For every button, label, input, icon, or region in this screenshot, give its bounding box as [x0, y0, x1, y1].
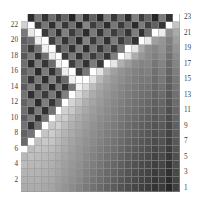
heatmap-cell: [173, 60, 180, 68]
heatmap-cell: [97, 177, 104, 185]
heatmap-cell: [145, 60, 152, 68]
heatmap-cell: [132, 91, 139, 99]
heatmap-cell: [21, 22, 28, 30]
heatmap-cell: [132, 29, 139, 37]
heatmap-cell: [76, 177, 83, 185]
heatmap-cell: [132, 161, 139, 169]
heatmap-cell: [28, 60, 35, 68]
heatmap-cell: [83, 107, 90, 115]
heatmap-cell: [62, 37, 69, 45]
heatmap-cell: [49, 76, 56, 84]
heatmap-figure: 222018161412108642 2321191715131197531: [0, 0, 199, 199]
heatmap-cell: [166, 68, 173, 76]
heatmap-cell: [118, 115, 125, 123]
heatmap-cell: [111, 14, 118, 22]
heatmap-cell: [69, 60, 76, 68]
heatmap-cell: [35, 68, 42, 76]
heatmap-cell: [118, 22, 125, 30]
heatmap-cell: [139, 115, 146, 123]
heatmap-cell: [56, 60, 63, 68]
heatmap-cell: [28, 153, 35, 161]
heatmap-cell: [42, 84, 49, 92]
heatmap-cell: [152, 169, 159, 177]
heatmap-cell: [166, 76, 173, 84]
heatmap-cell: [118, 153, 125, 161]
heatmap-cell: [145, 146, 152, 154]
heatmap-cell: [145, 107, 152, 115]
heatmap-cell: [28, 91, 35, 99]
heatmap-cell: [28, 161, 35, 169]
heatmap-cell: [166, 99, 173, 107]
heatmap-cell: [35, 138, 42, 146]
heatmap-cell: [125, 60, 132, 68]
heatmap-cell: [62, 161, 69, 169]
heatmap-cell: [83, 76, 90, 84]
heatmap-cell: [152, 184, 159, 192]
heatmap-cell: [69, 14, 76, 22]
right-axis-tick-19: 19: [184, 45, 191, 52]
heatmap-cell: [152, 14, 159, 22]
heatmap-cell: [83, 29, 90, 37]
heatmap-cell: [145, 161, 152, 169]
heatmap-cell: [56, 53, 63, 61]
heatmap-cell: [166, 29, 173, 37]
heatmap-cell: [76, 169, 83, 177]
heatmap-cell: [83, 161, 90, 169]
heatmap-cell: [35, 122, 42, 130]
heatmap-cell: [111, 161, 118, 169]
heatmap-cell: [56, 184, 63, 192]
heatmap-cell: [90, 37, 97, 45]
heatmap-cell: [28, 146, 35, 154]
heatmap-cell: [139, 68, 146, 76]
left-axis-tick-8: 8: [14, 130, 18, 137]
heatmap-cell: [132, 68, 139, 76]
right-axis-tick-17: 17: [184, 61, 191, 68]
heatmap-cell: [42, 29, 49, 37]
heatmap-cell: [139, 169, 146, 177]
heatmap-cell: [132, 122, 139, 130]
heatmap-cell: [173, 68, 180, 76]
heatmap-cell: [42, 138, 49, 146]
heatmap-cell: [132, 184, 139, 192]
heatmap-cell: [118, 130, 125, 138]
right-axis-tick-5: 5: [184, 154, 188, 161]
heatmap-cell: [159, 115, 166, 123]
heatmap-cell: [56, 177, 63, 185]
heatmap-cell: [104, 29, 111, 37]
heatmap-cell: [125, 138, 132, 146]
heatmap-cell: [118, 161, 125, 169]
heatmap-cell: [118, 91, 125, 99]
left-axis-tick-12: 12: [11, 99, 18, 106]
heatmap-cell: [90, 107, 97, 115]
heatmap-cell: [49, 130, 56, 138]
heatmap-cell: [35, 91, 42, 99]
heatmap-cell: [76, 45, 83, 53]
heatmap-cell: [125, 37, 132, 45]
heatmap-cell: [49, 107, 56, 115]
heatmap-cell: [83, 60, 90, 68]
heatmap-cell: [159, 161, 166, 169]
heatmap-cell: [104, 99, 111, 107]
heatmap-cell: [83, 130, 90, 138]
heatmap-cell: [28, 76, 35, 84]
heatmap-cell: [21, 122, 28, 130]
heatmap-cell: [118, 14, 125, 22]
heatmap-cell: [83, 177, 90, 185]
heatmap-cell: [104, 146, 111, 154]
heatmap-cell: [173, 130, 180, 138]
heatmap-cell: [56, 84, 63, 92]
heatmap-cell: [111, 130, 118, 138]
heatmap-cell: [139, 130, 146, 138]
heatmap-cell: [62, 60, 69, 68]
heatmap-cell: [159, 29, 166, 37]
heatmap-cell: [166, 138, 173, 146]
heatmap-cell: [145, 29, 152, 37]
heatmap-cell: [90, 99, 97, 107]
heatmap-cell: [118, 37, 125, 45]
heatmap-cell: [152, 60, 159, 68]
heatmap-cell: [62, 177, 69, 185]
heatmap-cell: [173, 153, 180, 161]
heatmap-cell: [49, 138, 56, 146]
heatmap-cell: [125, 146, 132, 154]
heatmap-cell: [132, 153, 139, 161]
